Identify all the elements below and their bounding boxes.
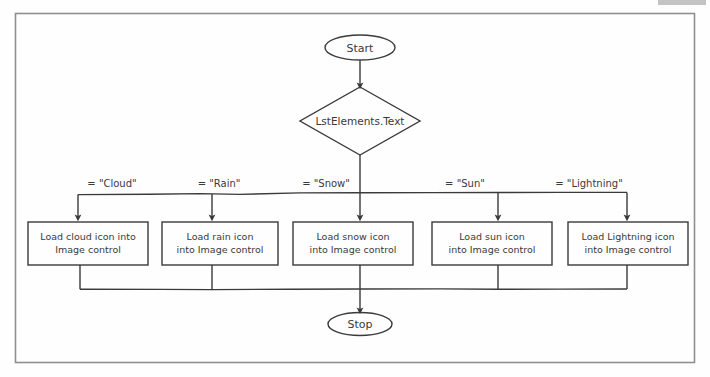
process-3-line-2: into Image control: [310, 244, 397, 255]
branch-label-sun: = "Sun": [445, 178, 485, 189]
node-stop-label: Stop: [347, 318, 372, 331]
process-5-line-1: Load Lightning icon: [582, 231, 675, 242]
process-5-line-2: into Image control: [585, 244, 672, 255]
node-decision-label: LstElements.Text: [316, 115, 405, 127]
process-4-line-2: into Image control: [449, 244, 536, 255]
branch-label-cloud: = "Cloud": [87, 178, 136, 189]
branch-label-lightning: = "Lightning": [555, 178, 623, 189]
process-4-line-1: Load sun icon: [459, 231, 525, 242]
branch-label-snow: = "Snow": [302, 178, 350, 189]
flowchart-canvas: Start LstElements.Text = "Cloud" = "Rain…: [0, 0, 710, 377]
branch-label-rain: = "Rain": [198, 178, 241, 189]
process-3-line-1: Load snow icon: [316, 231, 389, 242]
process-2-line-2: into Image control: [177, 244, 264, 255]
process-1-line-1: Load cloud icon into: [40, 231, 136, 242]
process-1-line-2: Image control: [55, 244, 121, 255]
process-2-line-1: Load rain icon: [187, 231, 254, 242]
node-start-label: Start: [347, 42, 375, 55]
text-layer: Start LstElements.Text = "Cloud" = "Rain…: [0, 0, 710, 377]
